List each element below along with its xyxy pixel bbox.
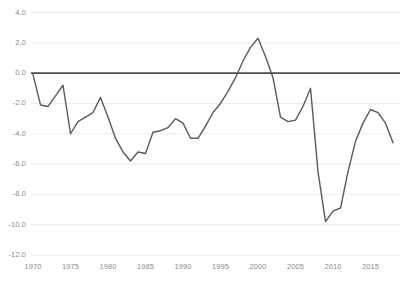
y-tick-label: 2.0 xyxy=(0,39,26,47)
y-tick-label: -6.0 xyxy=(0,160,26,168)
x-tick-label: 1990 xyxy=(166,263,200,271)
y-tick-label: -2.0 xyxy=(0,99,26,107)
x-tick-label: 2015 xyxy=(354,263,388,271)
x-tick-label: 1970 xyxy=(16,263,50,271)
x-tick-label: 1985 xyxy=(129,263,163,271)
line-chart: 4.02.00.0-2.0-4.0-6.0-8.0-10.0-12.0 1970… xyxy=(0,0,404,288)
y-tick-label: -10.0 xyxy=(0,221,26,229)
gridlines xyxy=(31,13,400,256)
x-tick-label: 2005 xyxy=(279,263,313,271)
y-tick-label: 4.0 xyxy=(0,9,26,17)
x-tick-label: 1975 xyxy=(54,263,88,271)
y-tick-label: -12.0 xyxy=(0,251,26,259)
x-tick-label: 2000 xyxy=(241,263,275,271)
y-tick-label: -8.0 xyxy=(0,190,26,198)
y-tick-label: -4.0 xyxy=(0,130,26,138)
y-tick-label: 0.0 xyxy=(0,69,26,77)
x-tick-label: 2010 xyxy=(316,263,350,271)
x-tick-label: 1995 xyxy=(204,263,238,271)
x-tick-label: 1980 xyxy=(91,263,125,271)
chart-plot-area xyxy=(0,0,404,288)
